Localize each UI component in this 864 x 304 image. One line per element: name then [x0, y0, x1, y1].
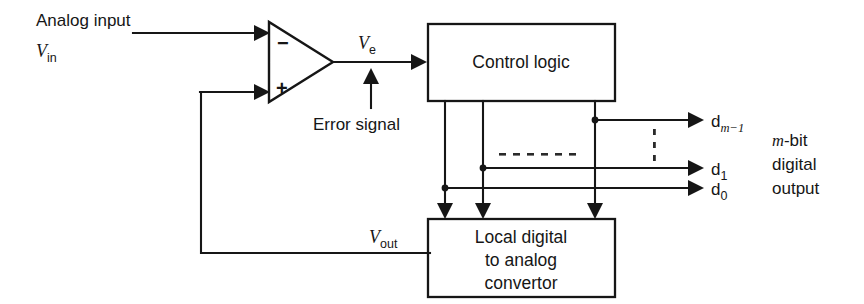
- bus-line-0: [437, 101, 453, 219]
- comparator-minus-label: −: [277, 32, 289, 54]
- output-wire-d0: [442, 180, 704, 196]
- caption-bit-rest: -bit: [784, 131, 808, 150]
- output-wire-d1: [480, 160, 704, 176]
- vout-label: Vout: [369, 227, 398, 251]
- arrowhead-icon: [254, 25, 270, 41]
- arrowhead-icon: [587, 203, 603, 219]
- caption-m-italic: m: [772, 131, 784, 150]
- bus-line-1: [475, 101, 491, 219]
- junction-dot-icon: [480, 165, 487, 172]
- dac-label-line3: convertor: [485, 273, 558, 293]
- arrowhead-icon: [688, 180, 704, 196]
- output-caption: m-bit digital output: [772, 131, 820, 198]
- caption-digital: digital: [772, 155, 816, 174]
- ve-label: Ve: [358, 33, 376, 57]
- arrowhead-icon: [475, 203, 491, 219]
- junction-dot-icon: [592, 117, 599, 124]
- vin-sub: in: [47, 51, 57, 65]
- arrowhead-icon: [254, 84, 270, 100]
- svg-text:d0: d0: [711, 180, 727, 203]
- error-signal-wire: [363, 68, 379, 108]
- vout-sub: out: [380, 237, 398, 251]
- adc-block-diagram: − +: [0, 0, 864, 304]
- horizontal-ellipsis-icon: [499, 153, 576, 156]
- dm1-base: d: [711, 112, 720, 131]
- output-wire-dm1: [592, 112, 704, 128]
- svg-text:Ve: Ve: [358, 33, 376, 57]
- arrowhead-icon: [688, 112, 704, 128]
- vin-label: Vin: [36, 41, 57, 65]
- dm1-sub: m−1: [720, 121, 744, 135]
- ve-wire: [333, 54, 427, 70]
- analog-input-label: Analog input: [36, 11, 131, 30]
- d1-sub: 1: [720, 169, 727, 183]
- comparator-plus-label: +: [276, 77, 288, 99]
- output-label-dm1: dm−1: [711, 112, 744, 135]
- arrowhead-icon: [437, 203, 453, 219]
- d1-base: d: [711, 160, 720, 179]
- arrowhead-icon: [688, 160, 704, 176]
- junction-dot-icon: [442, 185, 449, 192]
- caption-output: output: [772, 179, 820, 198]
- d0-base: d: [711, 180, 720, 199]
- svg-text:m-bit: m-bit: [772, 131, 808, 150]
- ve-sub: e: [369, 43, 376, 57]
- arrowhead-icon: [411, 54, 427, 70]
- error-signal-label: Error signal: [313, 115, 400, 134]
- d0-sub: 0: [720, 189, 727, 203]
- feedback-wire-to-plus: [200, 84, 270, 100]
- svg-text:dm−1: dm−1: [711, 112, 744, 135]
- dac-label-line2: to analog: [485, 250, 557, 270]
- svg-text:Vin: Vin: [36, 41, 57, 65]
- svg-text:Vout: Vout: [369, 227, 398, 251]
- diagram-canvas: − +: [0, 0, 864, 304]
- analog-input-wire: [133, 25, 270, 41]
- control-logic-label: Control logic: [472, 52, 570, 72]
- arrowhead-icon: [363, 68, 379, 84]
- vertical-ellipsis-icon: [653, 129, 656, 161]
- dac-label-line1: Local digital: [475, 227, 567, 247]
- output-label-d0: d0: [711, 180, 727, 203]
